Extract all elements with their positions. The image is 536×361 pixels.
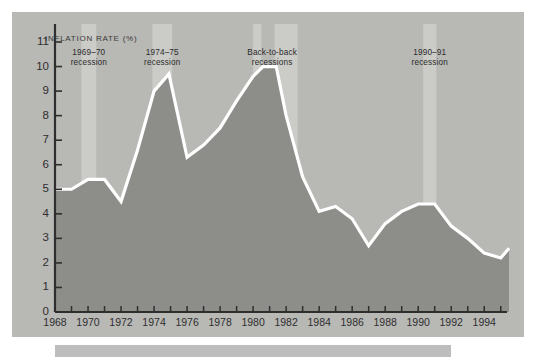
chart-panel: INFLATION RATE (%) 01234567891011 196819…: [12, 12, 524, 337]
y-axis-tick-label: 1: [27, 281, 49, 293]
caption-bar: [55, 345, 451, 357]
recession-band-label: 1974–75 recession: [127, 48, 197, 69]
y-axis-tick-label: 5: [27, 183, 49, 195]
y-axis-tick-label: 10: [27, 61, 49, 73]
recession-band-label: Back-to-back recessions: [237, 48, 307, 69]
y-axis-tick-label: 7: [27, 134, 49, 146]
y-axis-tick-label: 3: [27, 232, 49, 244]
x-axis-tick-label: 1994: [464, 317, 504, 328]
y-axis-tick-label: 8: [27, 110, 49, 122]
inflation-area-fill: [55, 67, 509, 312]
y-axis-tick-label: 4: [27, 208, 49, 220]
y-axis-title: INFLATION RATE (%): [45, 35, 137, 43]
y-axis-tick-label: 2: [27, 257, 49, 269]
inflation-area: [55, 67, 509, 312]
recession-band-label: 1969–70 recession: [54, 48, 124, 69]
y-axis-tick-label: 11: [27, 36, 49, 48]
y-axis-tick-label: 9: [27, 85, 49, 97]
inflation-rate-figure: INFLATION RATE (%) 01234567891011 196819…: [0, 0, 536, 361]
y-axis-tick-label: 6: [27, 159, 49, 171]
recession-band-label: 1990–91 recession: [395, 48, 465, 69]
